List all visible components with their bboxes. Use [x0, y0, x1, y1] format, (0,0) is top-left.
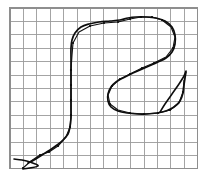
- vertex-marker: [129, 73, 131, 75]
- vertex-marker: [157, 112, 159, 114]
- vertex-marker: [70, 99, 72, 101]
- vertex-marker: [72, 42, 74, 44]
- vertex-marker: [169, 109, 171, 111]
- vertex-marker: [22, 167, 24, 169]
- vertex-marker: [70, 69, 72, 71]
- vertex-marker: [70, 114, 72, 116]
- vertex-marker: [161, 19, 163, 21]
- vertex-marker: [69, 126, 71, 128]
- vertex-marker: [117, 21, 119, 23]
- vertex-marker: [129, 18, 131, 20]
- vertex-marker: [48, 151, 50, 153]
- vertex-marker: [182, 91, 184, 93]
- vertex-marker: [111, 85, 113, 87]
- vertex-marker: [151, 16, 153, 18]
- vertex-marker: [57, 145, 59, 147]
- vertex-marker: [129, 112, 131, 114]
- vertex-marker: [89, 25, 91, 27]
- stroke-grid-figure: [0, 0, 209, 187]
- figure-root: [0, 0, 209, 187]
- vertex-marker: [140, 16, 142, 18]
- figure-background: [0, 0, 209, 187]
- vertex-marker: [103, 22, 105, 24]
- vertex-marker: [153, 62, 155, 64]
- vertex-marker: [70, 84, 72, 86]
- vertex-marker: [109, 103, 111, 105]
- vertex-marker: [143, 113, 145, 115]
- vertex-marker: [119, 78, 121, 80]
- vertex-marker: [172, 47, 174, 49]
- vertex-marker: [141, 67, 143, 69]
- vertex-marker: [39, 154, 41, 156]
